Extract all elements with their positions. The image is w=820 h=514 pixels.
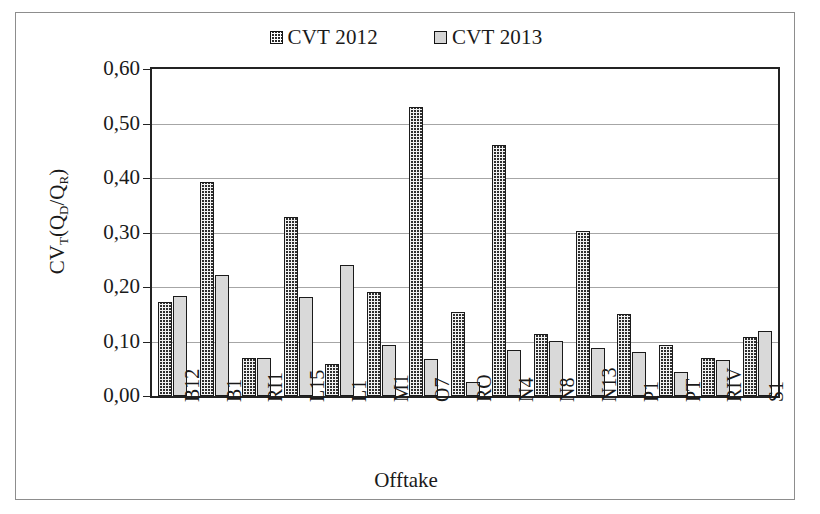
legend-swatch-icon-cvt-2012 <box>270 31 283 44</box>
y-axis-title: CVT(QD/QR) <box>45 102 70 342</box>
x-tick-label-RIV: RIV <box>724 324 744 402</box>
x-tick-label-L15: L15 <box>307 324 327 402</box>
x-tick-label-N8: N8 <box>557 324 577 402</box>
x-tick-label-N4: N4 <box>516 324 536 402</box>
y-tick-label: 0,30 <box>76 222 140 243</box>
x-tick-label-PT: PT <box>683 324 703 402</box>
x-tick-label-B12: B12 <box>182 324 202 402</box>
y-tick-mark <box>143 233 150 234</box>
x-tick-label-P1: P1 <box>641 324 661 402</box>
y-tick-label: 0,60 <box>76 58 140 79</box>
chart-legend: CVT 2012 CVT 2013 <box>16 27 796 48</box>
x-tick-label-L1: L1 <box>349 324 369 402</box>
y-axis-title-sub-2: D <box>56 205 71 214</box>
x-tick-label-O7: O7 <box>432 324 452 402</box>
y-tick-label: 0,10 <box>76 331 140 352</box>
y-tick-mark <box>143 342 150 343</box>
bar-B1-cvt-2012 <box>200 182 214 396</box>
y-tick-label: 0,50 <box>76 113 140 134</box>
x-tick-label-S1: S1 <box>766 324 786 402</box>
y-axis-title-sub-1: T <box>56 237 71 245</box>
y-tick-mark <box>143 396 150 397</box>
y-axis-title-part-3: /Q <box>45 184 69 205</box>
y-tick-mark <box>143 178 150 179</box>
legend-swatch-icon-cvt-2013 <box>434 31 447 44</box>
legend-entry-cvt-2012: CVT 2012 <box>270 27 378 48</box>
x-tick-label-N13: N13 <box>599 324 619 402</box>
x-tick-label-B1: B1 <box>224 324 244 402</box>
chart-outer-frame: CVT 2012 CVT 2013 CVT(QD/QR) 0,600,500,4… <box>15 12 795 500</box>
y-axis-title-sub-3: R <box>56 176 71 185</box>
bar-B12-cvt-2012 <box>158 302 172 396</box>
y-tick-label: 0,40 <box>76 167 140 188</box>
legend-label-cvt-2012: CVT 2012 <box>288 27 378 48</box>
y-axis-title-part-1: CV <box>45 245 69 274</box>
x-tick-label-M1: M1 <box>391 324 411 402</box>
x-tick-label-RI1: RI1 <box>265 324 285 402</box>
y-tick-mark <box>143 69 150 70</box>
y-tick-mark <box>143 287 150 288</box>
bar-N4-cvt-2012 <box>492 145 506 396</box>
bar-L15-cvt-2012 <box>284 217 298 396</box>
y-tick-label: 0,20 <box>76 276 140 297</box>
y-axis-title-part-2: (Q <box>45 215 69 237</box>
legend-label-cvt-2013: CVT 2013 <box>452 27 542 48</box>
y-tick-mark <box>143 124 150 125</box>
bar-N13-cvt-2012 <box>576 231 590 396</box>
x-axis-title: Offtake <box>16 468 796 493</box>
legend-entry-cvt-2013: CVT 2013 <box>434 27 542 48</box>
x-tick-label-RO: RO <box>474 324 494 402</box>
y-tick-label: 0,00 <box>76 385 140 406</box>
